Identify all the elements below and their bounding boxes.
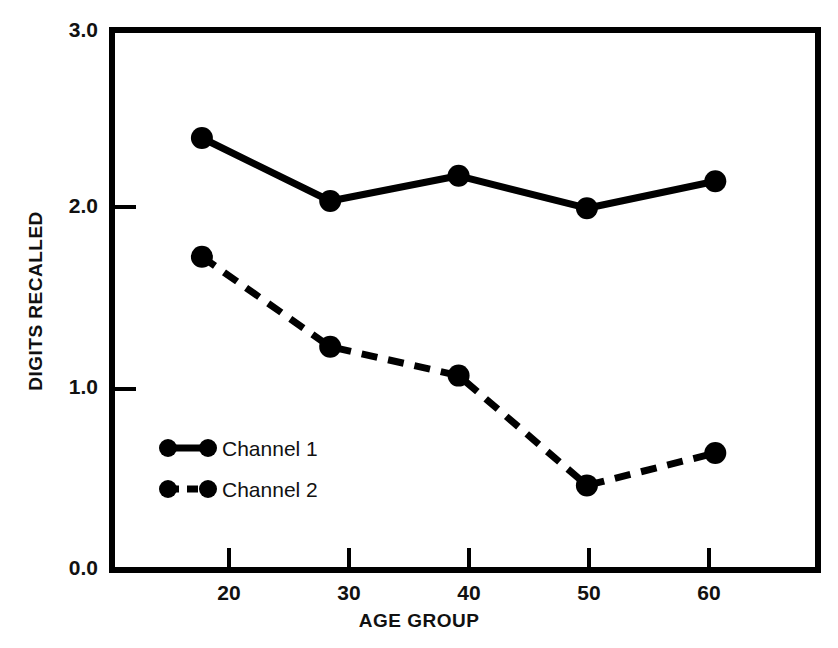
data-point bbox=[704, 442, 726, 464]
data-point bbox=[191, 246, 213, 268]
data-point bbox=[704, 170, 726, 192]
series-channel-2 bbox=[191, 246, 726, 497]
data-point bbox=[319, 190, 341, 212]
data-point bbox=[576, 474, 598, 496]
data-point bbox=[448, 365, 470, 387]
data-point bbox=[191, 127, 213, 149]
data-series-layer bbox=[191, 127, 726, 496]
chart-figure: DIGITS RECALLED AGE GROUP 3.0 2.0 1.0 0.… bbox=[0, 0, 838, 648]
plot-area bbox=[0, 0, 838, 648]
legend-swatch-channel-1 bbox=[159, 439, 217, 457]
series-channel-1 bbox=[191, 127, 726, 219]
data-point bbox=[448, 165, 470, 187]
legend-swatches bbox=[159, 439, 217, 498]
data-point bbox=[576, 197, 598, 219]
legend-swatch-channel-2 bbox=[159, 480, 217, 498]
axis-frame bbox=[112, 30, 818, 570]
plot-frame bbox=[112, 30, 818, 570]
data-point bbox=[319, 336, 341, 358]
